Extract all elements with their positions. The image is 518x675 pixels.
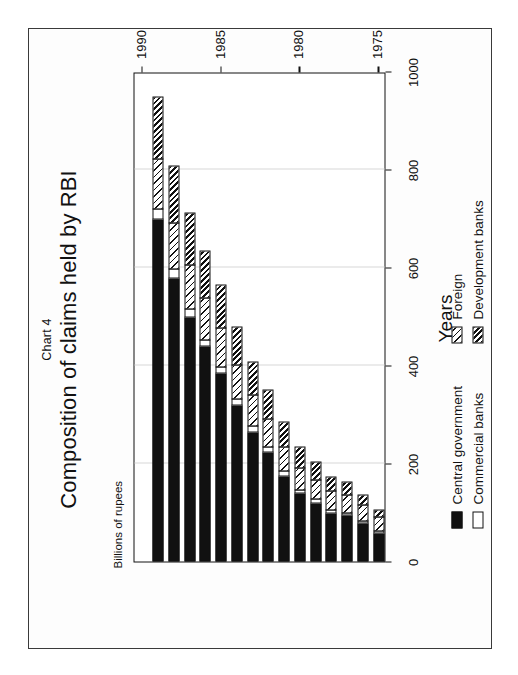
- bar-segment-dev: [152, 96, 163, 159]
- category-axis-tick-label: 1980: [290, 30, 305, 59]
- bar-segment-foreign: [357, 504, 368, 521]
- legend-label: Central government: [449, 385, 464, 504]
- bar-segment-gov: [325, 512, 336, 561]
- value-axis-tick: [385, 169, 391, 170]
- chart-figure: Chart 4 Composition of claims held by RB…: [29, 29, 491, 648]
- category-axis-tick-label: 1985: [212, 30, 227, 59]
- legend-swatch-icon: [472, 511, 483, 528]
- bar-segment-gov: [247, 431, 258, 561]
- page-canvas: Chart 4 Composition of claims held by RB…: [0, 0, 518, 675]
- bar-1989: [152, 96, 163, 561]
- legend-label: Development banks: [470, 200, 485, 319]
- category-axis-tick-label: 1975: [369, 30, 384, 59]
- value-axis-tick: [385, 267, 391, 268]
- category-axis-tick: [298, 66, 299, 72]
- legend-item[interactable]: Development banks: [470, 200, 485, 343]
- bar-segment-gov: [357, 522, 368, 561]
- bar-1976: [357, 494, 368, 561]
- bar-1987: [184, 212, 195, 561]
- bar-1975: [373, 509, 384, 561]
- bar-segment-foreign: [325, 491, 336, 511]
- bar-segment-foreign: [341, 494, 352, 513]
- legend-swatch-icon: [451, 511, 462, 528]
- bar-1983: [247, 361, 258, 561]
- bar-segment-gov: [341, 514, 352, 561]
- bar-segment-gov: [215, 372, 226, 561]
- figure-sheet: Chart 4 Composition of claims held by RB…: [28, 28, 492, 649]
- bar-segment-foreign: [215, 327, 226, 366]
- bar-segment-foreign: [373, 516, 384, 531]
- rotation-wrapper: Chart 4 Composition of claims held by RB…: [29, 29, 491, 648]
- legend-item[interactable]: Commercial banks: [470, 392, 485, 528]
- bar-1981: [278, 421, 289, 561]
- legend-swatch-icon: [451, 326, 462, 343]
- bar-segment-gov: [231, 404, 242, 561]
- bar-segment-foreign: [294, 467, 305, 490]
- bar-segment-foreign: [199, 297, 210, 339]
- value-axis-tick-label: 400: [405, 355, 420, 377]
- bar-segment-foreign: [278, 446, 289, 471]
- bar-segment-gov: [373, 532, 384, 561]
- value-axis-tick: [385, 365, 391, 366]
- bar-segment-foreign: [231, 364, 242, 399]
- bar-1977: [341, 481, 352, 561]
- value-axis-tick: [385, 561, 391, 562]
- category-axis-tick: [220, 66, 221, 72]
- chart-title: Composition of claims held by RBI: [55, 170, 81, 508]
- bar-segment-dev: [247, 361, 258, 395]
- value-axis-tick: [385, 463, 391, 464]
- bar-segment-gov: [294, 492, 305, 561]
- value-axis-tick-label: 200: [405, 453, 420, 475]
- plot-area: [133, 72, 385, 562]
- bar-segment-dev: [199, 250, 210, 298]
- bar-segment-foreign: [152, 158, 163, 209]
- bar-segment-dev: [357, 494, 368, 505]
- bar-segment-dev: [184, 212, 195, 265]
- bar-segment-foreign: [310, 479, 321, 500]
- bar-segment-gov: [199, 345, 210, 561]
- bar-segment-gov: [278, 475, 289, 561]
- legend-item[interactable]: Foreign: [449, 273, 464, 343]
- bar-1980: [294, 446, 305, 561]
- category-axis-tick: [141, 66, 142, 72]
- bar-segment-dev: [278, 421, 289, 446]
- value-axis-tick-label: 800: [405, 159, 420, 181]
- bar-segment-foreign: [262, 418, 273, 446]
- bar-segment-dev: [215, 284, 226, 328]
- bar-segment-foreign: [247, 394, 258, 426]
- bar-segment-gov: [152, 218, 163, 561]
- bar-segment-gov: [184, 316, 195, 561]
- category-axis-tick-label: 1990: [133, 30, 148, 59]
- bar-1986: [199, 250, 210, 561]
- bar-1984: [231, 326, 242, 561]
- bar-segment-dev: [310, 461, 321, 480]
- legend-swatch-icon: [472, 326, 483, 343]
- bar-segment-gov: [310, 502, 321, 561]
- bar-segment-dev: [231, 326, 242, 365]
- bar-segment-dev: [373, 509, 384, 517]
- legend-label: Foreign: [449, 273, 464, 319]
- bar-segment-dev: [341, 481, 352, 495]
- value-axis-tick-label: 600: [405, 257, 420, 279]
- bar-segment-gov: [262, 451, 273, 561]
- bar-1988: [168, 165, 179, 561]
- bar-segment-dev: [325, 476, 336, 492]
- bar-segment-dev: [294, 446, 305, 468]
- bar-segment-dev: [262, 389, 273, 419]
- value-axis-tick-label: 1000: [405, 58, 420, 87]
- value-axis-label: Billions of rupees: [111, 480, 123, 568]
- bar-1979: [310, 461, 321, 561]
- value-axis-tick-label: 0: [405, 558, 420, 565]
- chart-number: Chart 4: [39, 318, 53, 360]
- bar-segment-dev: [168, 165, 179, 223]
- bar-segment-comm: [152, 208, 163, 219]
- bar-segment-gov: [168, 277, 179, 561]
- bar-1982: [262, 389, 273, 561]
- legend-item[interactable]: Central government: [449, 385, 464, 528]
- value-axis-tick: [385, 71, 391, 72]
- bar-1978: [325, 476, 336, 561]
- bar-segment-foreign: [168, 222, 179, 269]
- bar-1985: [215, 284, 226, 561]
- bar-segment-foreign: [184, 264, 195, 309]
- category-axis-tick: [377, 66, 378, 72]
